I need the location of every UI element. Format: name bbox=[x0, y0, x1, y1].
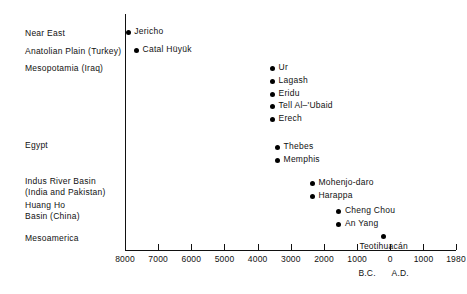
region-label: Mesoamerica bbox=[25, 233, 79, 244]
x-axis-tick-label: 2000 bbox=[314, 254, 334, 264]
x-axis-tick-label: 1000 bbox=[347, 254, 367, 264]
data-point bbox=[275, 145, 280, 150]
data-point bbox=[270, 92, 275, 97]
data-point-label: Lagash bbox=[279, 75, 308, 85]
x-axis-tick bbox=[224, 244, 225, 250]
data-point bbox=[270, 117, 275, 122]
data-point bbox=[134, 48, 139, 53]
region-label: Near East bbox=[25, 28, 65, 39]
x-axis-tick bbox=[291, 244, 292, 250]
data-point-label: Catal Hüyük bbox=[143, 44, 192, 54]
x-axis-tick bbox=[423, 244, 424, 250]
era-label-bc: B.C. bbox=[358, 268, 375, 278]
vertical-axis-line bbox=[125, 14, 126, 251]
data-point bbox=[310, 194, 315, 199]
region-label: Indus River Basin (India and Pakistan) bbox=[25, 176, 106, 198]
data-point-label: Eridu bbox=[279, 88, 300, 98]
x-axis-tick-label: 6000 bbox=[181, 254, 201, 264]
data-point-label: Cheng Chou bbox=[345, 205, 395, 215]
x-axis-tick-label: 1980 bbox=[446, 254, 466, 264]
data-point-label: Harappa bbox=[318, 190, 352, 200]
data-point bbox=[310, 181, 315, 186]
x-axis-tick bbox=[158, 244, 159, 250]
data-point bbox=[275, 158, 280, 163]
x-axis-tick bbox=[125, 244, 126, 250]
x-axis-tick-label: 0 bbox=[388, 254, 393, 264]
data-point-label: Thebes bbox=[284, 141, 314, 151]
x-axis-tick-label: 3000 bbox=[281, 254, 301, 264]
region-label: Egypt bbox=[25, 140, 48, 151]
data-point-label: Jericho bbox=[134, 26, 163, 36]
data-point-label: Ur bbox=[279, 62, 288, 72]
x-axis-tick bbox=[357, 244, 358, 250]
data-point bbox=[381, 234, 386, 239]
x-axis-tick-label: 4000 bbox=[248, 254, 268, 264]
data-point bbox=[270, 79, 275, 84]
x-axis-tick bbox=[324, 244, 325, 250]
region-label: Huang Ho Basin (China) bbox=[25, 200, 80, 222]
x-axis-tick-label: 7000 bbox=[148, 254, 168, 264]
region-label: Mesopotamia (Iraq) bbox=[25, 63, 103, 74]
x-axis-tick-label: 5000 bbox=[215, 254, 235, 264]
data-point bbox=[270, 66, 275, 71]
data-point-label: Teotihuacán bbox=[359, 241, 408, 251]
data-point-label: Tell Al–'Ubaid bbox=[279, 100, 333, 110]
data-point bbox=[270, 104, 275, 109]
data-point-label: Erech bbox=[279, 113, 302, 123]
data-point-label: Mohenjo-daro bbox=[318, 177, 373, 187]
data-point bbox=[336, 222, 341, 227]
data-point bbox=[126, 30, 131, 35]
x-axis-tick-label: 1000 bbox=[414, 254, 434, 264]
data-point bbox=[336, 209, 341, 214]
x-axis-tick bbox=[191, 244, 192, 250]
region-label: Anatolian Plain (Turkey) bbox=[25, 46, 121, 57]
x-axis-tick bbox=[258, 244, 259, 250]
data-point-label: Memphis bbox=[284, 154, 320, 164]
data-point-label: An Yang bbox=[345, 218, 379, 228]
x-axis-tick-label: 8000 bbox=[115, 254, 135, 264]
timeline-scatter-chart: 8000700060005000400030002000100001000198… bbox=[0, 0, 467, 294]
x-axis-tick bbox=[456, 244, 457, 250]
era-label-ad: A.D. bbox=[392, 268, 409, 278]
